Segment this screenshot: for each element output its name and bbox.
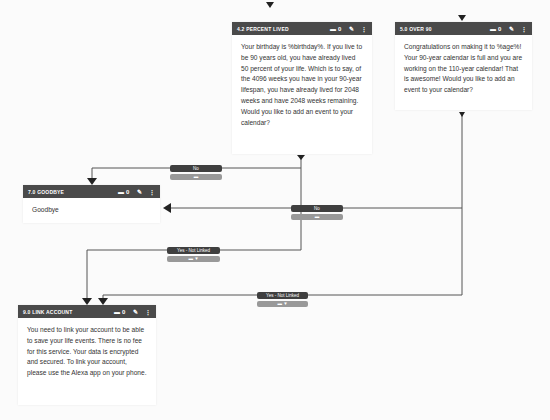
node-body: You need to link your account to be able… (18, 318, 156, 386)
node-header[interactable]: 5.0 Over 90 ▬ 0 ✎ ⋮ (395, 22, 532, 35)
node-goodbye[interactable]: 7.0 Goodbye ▬ 0 ✎ ⋮ Goodbye (23, 185, 160, 223)
edit-icon[interactable]: ✎ (509, 25, 514, 32)
more-icon[interactable]: ⋮ (145, 308, 151, 315)
comment-icon[interactable]: ▬ (170, 174, 222, 180)
comment-icon[interactable]: ▬ 0 (330, 26, 342, 32)
more-icon[interactable]: ⋮ (361, 25, 367, 32)
node-header[interactable]: 9.0 Link Account ▬ 0 ✎ ⋮ (18, 305, 156, 318)
node-over-90[interactable]: 5.0 Over 90 ▬ 0 ✎ ⋮ Congratulations on m… (395, 22, 532, 110)
more-icon[interactable]: ⋮ (521, 25, 527, 32)
comment-icon[interactable]: ▬ 0 (114, 309, 126, 315)
node-body: Goodbye (23, 198, 160, 223)
edit-icon[interactable]: ✎ (349, 25, 354, 32)
comment-icon[interactable]: ▬ (277, 301, 282, 306)
node-percent-lived[interactable]: 4.2 Percent Lived ▬ 0 ✎ ⋮ Your birthday … (232, 22, 372, 154)
node-link-account[interactable]: 9.0 Link Account ▬ 0 ✎ ⋮ You need to lin… (18, 305, 156, 405)
node-body: Congratulations on making it to %age%! Y… (395, 35, 532, 103)
node-header[interactable]: 7.0 Goodbye ▬ 0 ✎ ⋮ (23, 185, 160, 198)
filter-icon[interactable]: ▼ (283, 301, 287, 306)
comment-icon[interactable]: ▬ (291, 214, 343, 220)
edge-label-yes-not-linked[interactable]: Yes - Not Linked ▬ ▼ (167, 247, 220, 262)
node-title: 9.0 Link Account (23, 309, 114, 315)
edge-label-yes-not-linked[interactable]: Yes - Not Linked ▬ ▼ (257, 292, 308, 307)
more-icon[interactable]: ⋮ (149, 188, 155, 195)
edge-label-no[interactable]: No ▬ (170, 165, 222, 180)
node-title: 7.0 Goodbye (28, 189, 118, 195)
comment-icon[interactable]: ▬ 0 (118, 189, 130, 195)
comment-icon[interactable]: ▬ 0 (490, 26, 502, 32)
filter-icon[interactable]: ▼ (194, 256, 198, 261)
edge-label-no[interactable]: No ▬ (291, 205, 343, 220)
node-title: 5.0 Over 90 (400, 26, 490, 32)
node-title: 4.2 Percent Lived (237, 26, 330, 32)
comment-icon[interactable]: ▬ (188, 256, 193, 261)
edit-icon[interactable]: ✎ (133, 308, 138, 315)
edit-icon[interactable]: ✎ (137, 188, 142, 195)
node-body: Your birthday is %birthday%. If you live… (232, 35, 372, 135)
node-header[interactable]: 4.2 Percent Lived ▬ 0 ✎ ⋮ (232, 22, 372, 35)
